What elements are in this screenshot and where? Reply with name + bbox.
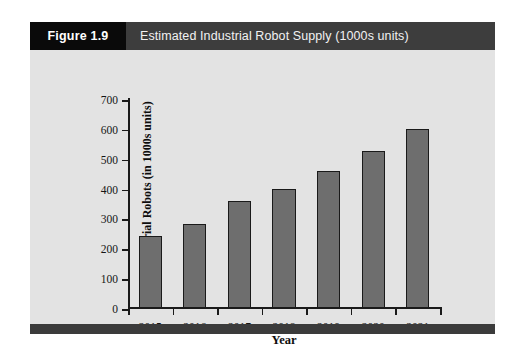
y-tick-label: 600 bbox=[101, 124, 118, 136]
bar bbox=[406, 129, 429, 308]
x-tick bbox=[173, 309, 175, 315]
x-tick bbox=[440, 309, 442, 315]
bar bbox=[317, 171, 340, 308]
x-tick bbox=[262, 309, 264, 315]
bar bbox=[272, 189, 295, 308]
y-tick bbox=[122, 279, 129, 281]
x-tick bbox=[306, 309, 308, 315]
y-tick-label: 500 bbox=[101, 154, 118, 166]
bar bbox=[362, 151, 385, 308]
figure-title-label: Estimated Industrial Robot Supply (1000s… bbox=[140, 29, 409, 43]
y-tick bbox=[122, 100, 129, 102]
bar bbox=[139, 236, 162, 308]
x-tick bbox=[395, 309, 397, 315]
y-tick bbox=[122, 130, 129, 132]
figure-footer-rule bbox=[30, 324, 495, 334]
y-tick-label: 700 bbox=[101, 94, 118, 106]
x-axis-title: Year bbox=[128, 333, 440, 348]
figure-title-bar: Estimated Industrial Robot Supply (1000s… bbox=[126, 22, 495, 50]
y-tick bbox=[122, 219, 129, 221]
x-tick bbox=[128, 309, 130, 315]
y-tick bbox=[122, 249, 129, 251]
y-tick-label: 0 bbox=[112, 303, 118, 315]
figure-number-label: Figure 1.9 bbox=[47, 29, 108, 43]
x-tick bbox=[351, 309, 353, 315]
figure-number-box: Figure 1.9 bbox=[30, 22, 126, 50]
y-tick-label: 100 bbox=[101, 273, 118, 285]
plot-area: 0100200300400500600700 20152016201720182… bbox=[128, 100, 440, 309]
chart-panel: Industrial Robots (in 1000s units) 01002… bbox=[30, 50, 495, 324]
y-tick-label: 200 bbox=[101, 243, 118, 255]
bar bbox=[183, 224, 206, 308]
bar bbox=[228, 201, 251, 308]
bar-chart: Industrial Robots (in 1000s units) 01002… bbox=[30, 50, 495, 324]
y-tick bbox=[122, 190, 129, 192]
y-tick-label: 400 bbox=[101, 184, 118, 196]
figure-header: Figure 1.9 Estimated Industrial Robot Su… bbox=[30, 22, 495, 50]
figure-block: Figure 1.9 Estimated Industrial Robot Su… bbox=[30, 22, 495, 334]
x-tick bbox=[217, 309, 219, 315]
y-tick bbox=[122, 160, 129, 162]
y-tick-label: 300 bbox=[101, 213, 118, 225]
